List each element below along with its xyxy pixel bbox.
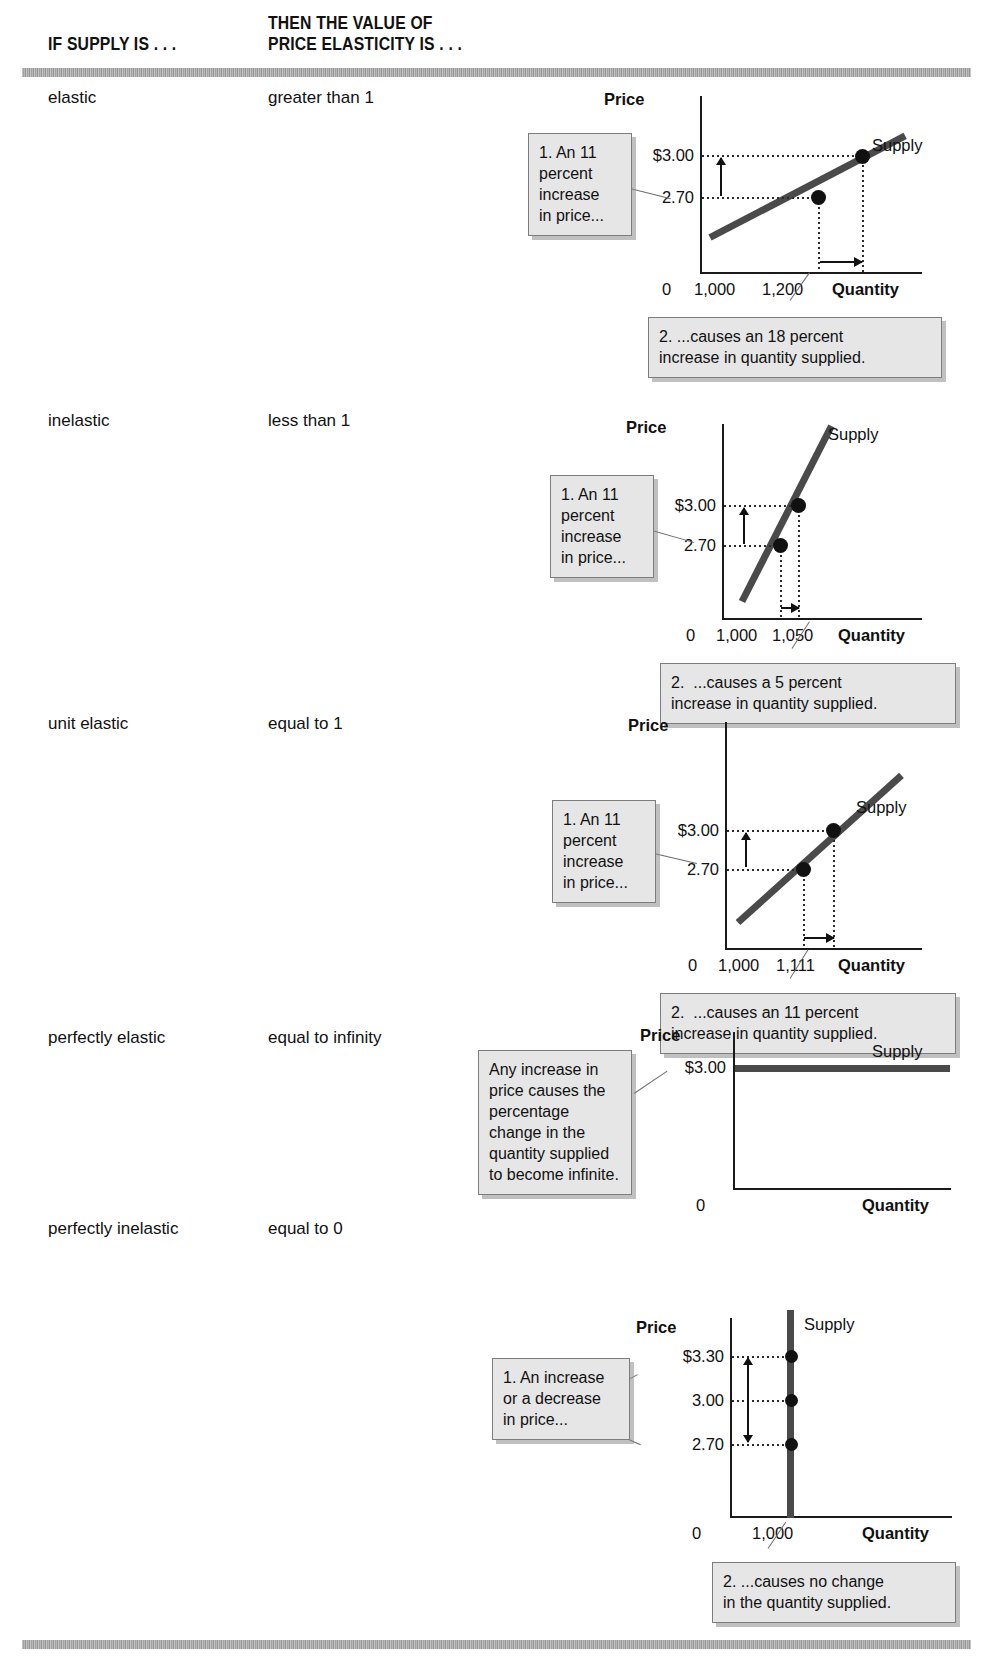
y-axis-title: Price <box>626 418 666 437</box>
x-axis <box>722 618 922 620</box>
callout-line: 1. An increase <box>503 1367 619 1388</box>
x-axis <box>725 948 922 950</box>
price-guide-low <box>724 545 780 547</box>
callout-line: quantity supplied <box>489 1143 621 1164</box>
row-label-supply-3: perfectly elastic <box>48 1027 165 1049</box>
callout-line: in price... <box>563 872 645 893</box>
callout-line: in price... <box>503 1409 619 1430</box>
y-axis-title: Price <box>640 1026 680 1045</box>
callout-line: increase <box>563 851 645 872</box>
callout-price-increase: 1. An 11 percent increase in price... <box>528 133 632 236</box>
supply-curve <box>736 773 904 925</box>
y-axis-title: Price <box>636 1318 676 1337</box>
callout-line: 2. ...causes an 18 percent <box>659 326 931 347</box>
x-axis-title: Quantity <box>838 626 905 645</box>
x-tick-zero: 0 <box>686 626 695 645</box>
quantity-guide-high <box>833 830 835 948</box>
y-tick-330: $3.30 <box>626 1347 724 1366</box>
data-point-300 <box>785 1394 798 1407</box>
x-tick-zero: 0 <box>696 1196 705 1215</box>
callout-price-change: 1. An increase or a decrease in price... <box>492 1358 630 1440</box>
y-axis-title: Price <box>628 716 668 735</box>
row-label-elasticity-0: greater than 1 <box>268 87 374 109</box>
callout-price-increase: 1. An 11 percent increase in price... <box>552 800 656 903</box>
y-tick-300: 3.00 <box>626 1391 724 1410</box>
x-axis-title: Quantity <box>832 280 899 299</box>
supply-label: Supply <box>872 1042 922 1061</box>
y-axis <box>700 96 702 274</box>
callout-line: increase in quantity supplied. <box>671 1023 945 1044</box>
table-header: IF SUPPLY IS . . . THEN THE VALUE OF PRI… <box>0 0 993 72</box>
row-label-supply-2: unit elastic <box>48 713 128 735</box>
callout-line: Any increase in <box>489 1059 621 1080</box>
data-point-low <box>811 190 826 205</box>
row-label-supply-4: perfectly inelastic <box>48 1218 178 1240</box>
callout-line: percent <box>563 830 645 851</box>
quantity-increase-arrow <box>820 256 862 268</box>
x-axis-title: Quantity <box>838 956 905 975</box>
y-tick-price: $3.00 <box>630 1058 726 1077</box>
price-increase-arrow <box>740 833 752 867</box>
price-guide-330 <box>732 1356 790 1358</box>
row-label-supply-1: inelastic <box>48 410 109 432</box>
callout-quantity-increase: 2. ...causes an 18 percent increase in q… <box>648 317 942 378</box>
supply-label: Supply <box>856 798 906 817</box>
supply-curve <box>739 424 835 603</box>
data-point-330 <box>785 1350 798 1363</box>
header-divider <box>22 68 971 77</box>
price-guide-high <box>702 155 862 157</box>
price-increase-arrow <box>738 508 750 544</box>
data-point-270 <box>785 1438 798 1451</box>
callout-infinite-elasticity: Any increase in price causes the percent… <box>478 1050 632 1195</box>
callout-line: increase <box>539 184 621 205</box>
price-guide-low <box>727 869 803 871</box>
callout-line: change in the <box>489 1122 621 1143</box>
supply-label: Supply <box>828 425 878 444</box>
callout-line: 1. An 11 <box>561 484 643 505</box>
callout-line: or a decrease <box>503 1388 619 1409</box>
price-change-arrow <box>742 1358 754 1442</box>
quantity-increase-arrow <box>781 602 799 614</box>
x-tick-zero: 0 <box>692 1524 701 1543</box>
callout-line: in the quantity supplied. <box>723 1592 945 1613</box>
callout-line: percent <box>561 505 643 526</box>
price-guide-300 <box>732 1400 790 1402</box>
row-label-elasticity-2: equal to 1 <box>268 713 343 735</box>
callout-line: increase in quantity supplied. <box>671 693 945 714</box>
row-label-elasticity-4: equal to 0 <box>268 1218 343 1240</box>
price-increase-arrow <box>715 158 727 196</box>
x-axis-title: Quantity <box>862 1196 929 1215</box>
row-label-elasticity-3: equal to infinity <box>268 1027 381 1049</box>
column-header-supply: IF SUPPLY IS . . . <box>48 34 176 55</box>
x-axis <box>730 1516 952 1518</box>
footer-divider <box>22 1640 971 1649</box>
x-tick-q2: 1,111 <box>776 956 815 975</box>
x-axis-title: Quantity <box>862 1524 929 1543</box>
row-label-elasticity-1: less than 1 <box>268 410 350 432</box>
x-tick-q1: 1,000 <box>718 956 759 975</box>
y-axis <box>733 1032 735 1190</box>
callout-line: 2. ...causes no change <box>723 1571 945 1592</box>
price-guide-low <box>702 197 818 199</box>
x-axis <box>700 272 922 274</box>
data-point-low <box>773 538 788 553</box>
callout-price-increase: 1. An 11 percent increase in price... <box>550 475 654 578</box>
callout-line: in price... <box>561 547 643 568</box>
callout-line: 1. An 11 <box>563 809 645 830</box>
data-point-high <box>855 149 870 164</box>
supply-label: Supply <box>804 1315 854 1334</box>
supply-label: Supply <box>872 136 922 155</box>
callout-line: 1. An 11 <box>539 142 621 163</box>
callout-line: price causes the <box>489 1080 621 1101</box>
x-axis <box>733 1188 951 1190</box>
column-header-elasticity-line1: THEN THE VALUE OF <box>268 13 462 34</box>
data-point-high <box>791 498 806 513</box>
y-axis <box>730 1318 732 1518</box>
callout-line: percentage <box>489 1101 621 1122</box>
y-axis <box>725 722 727 950</box>
callout-quantity-increase: 2. ...causes a 5 percent increase in qua… <box>660 663 956 724</box>
row-label-supply-0: elastic <box>48 87 96 109</box>
callout-line: 2. ...causes a 5 percent <box>671 672 945 693</box>
supply-curve <box>787 1310 794 1518</box>
y-axis <box>722 424 724 620</box>
